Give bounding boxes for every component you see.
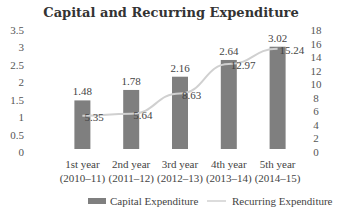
line-value-label: 12.97 [231, 59, 256, 71]
right-tick-label: 10 [311, 78, 323, 90]
right-tick-label: 18 [311, 24, 323, 36]
category-label-line1: 4th year [211, 158, 247, 170]
legend-capital-swatch [88, 198, 106, 204]
right-tick-label: 8 [313, 92, 319, 104]
left-tick-label: 2 [19, 76, 25, 88]
bar-value-label: 1.48 [73, 85, 93, 97]
category-label-line2: (2014–15) [255, 172, 301, 185]
bar-capital [270, 47, 286, 149]
left-tick-label: 3.5 [10, 24, 24, 36]
line-value-label: 8.63 [182, 89, 202, 101]
right-tick-label: 14 [311, 51, 323, 63]
bar-capital [74, 100, 90, 149]
right-tick-label: 4 [313, 119, 319, 131]
left-tick-label: 3 [19, 41, 25, 53]
right-tick-label: 16 [311, 38, 323, 50]
right-tick-label: 2 [313, 132, 319, 144]
category-labels: 1st year(2010–11)2nd year(2011–12)3rd ye… [60, 158, 301, 185]
right-axis: 024681012141618 [311, 24, 323, 158]
right-tick-label: 6 [313, 105, 319, 117]
left-tick-label: 0.5 [10, 129, 24, 141]
right-tick-label: 12 [311, 65, 322, 77]
category-label-line2: (2013–14) [206, 172, 252, 185]
category-label-line1: 3rd year [162, 158, 199, 170]
bar-capital [221, 60, 237, 149]
left-tick-label: 0 [19, 146, 25, 158]
left-tick-label: 1 [19, 111, 25, 123]
category-label-line2: (2011–12) [108, 172, 154, 185]
legend-recurring-label: Recurring Expenditure [232, 195, 333, 207]
legend-capital-label: Capital Expenditure [110, 195, 198, 207]
category-label-line2: (2010–11) [60, 172, 106, 185]
left-tick-label: 1.5 [10, 94, 24, 106]
line-value-label: 15.24 [280, 44, 305, 56]
line-value-label: 5.64 [133, 109, 153, 121]
legend: Capital Expenditure Recurring Expenditur… [88, 195, 333, 207]
bar-value-label: 2.16 [170, 62, 190, 74]
chart: Capital and Recurring Expenditure 00.511… [0, 0, 342, 217]
category-label-line1: 1st year [65, 158, 100, 170]
bar-value-label: 1.78 [122, 75, 142, 87]
line-value-label: 5.35 [84, 111, 104, 123]
bar-value-label: 3.02 [268, 32, 287, 44]
category-label-line1: 2nd year [112, 158, 151, 170]
chart-title: Capital and Recurring Expenditure [43, 5, 298, 20]
right-tick-label: 0 [313, 146, 319, 158]
bar-value-label: 2.64 [219, 45, 239, 57]
left-axis: 00.511.522.533.5 [10, 24, 24, 158]
category-label-line2: (2012–13) [157, 172, 203, 185]
category-label-line1: 5th year [260, 158, 296, 170]
left-tick-label: 2.5 [10, 59, 24, 71]
bars: 1.481.782.162.643.02 [73, 32, 287, 149]
